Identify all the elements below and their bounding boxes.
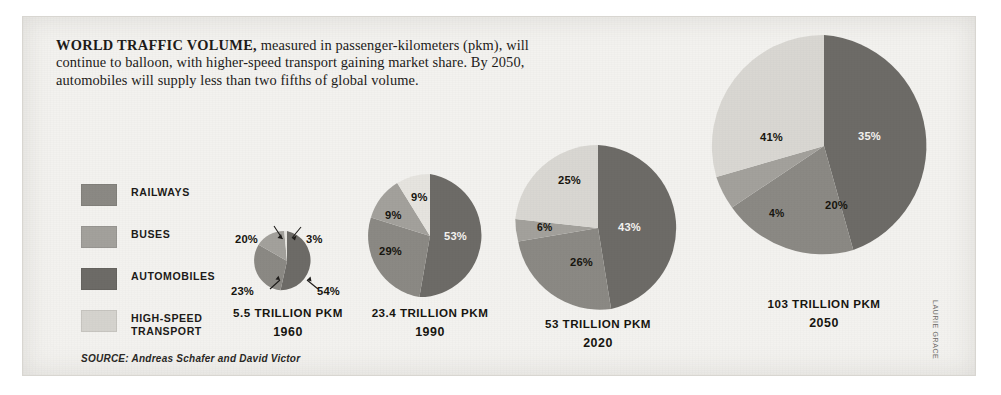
slice-label-buses-1960: 20% xyxy=(235,233,258,245)
pie-year-1960: 1960 xyxy=(220,325,356,339)
source-note: SOURCE: Andreas Schafer and David Victor xyxy=(81,353,300,364)
slice-label-high-speed-1960: 3% xyxy=(306,233,323,245)
legend-item-railways: RAILWAYS xyxy=(81,183,261,209)
slice-high-speed-2020 xyxy=(515,145,598,228)
legend-swatch-high-speed-transport xyxy=(81,310,117,332)
caption-lead: WORLD TRAFFIC VOLUME, xyxy=(56,37,257,53)
legend-label-railways: RAILWAYS xyxy=(131,183,190,199)
slice-label-automobiles-1990: 53% xyxy=(444,230,467,242)
pie-chart-2020: 43% 26% 6% 25% 53 TRILLION PKM 2020 xyxy=(515,145,681,341)
slice-label-buses-2050: 4% xyxy=(769,208,784,219)
figure-root: WORLD TRAFFIC VOLUME, measured in passen… xyxy=(0,0,1001,395)
pie-svg-2050 xyxy=(713,35,935,257)
pie-chart-1960: 20% 3% 23% 54% 5.5 TRILLION PKM 1960 xyxy=(234,230,342,340)
pie-year-1990: 1990 xyxy=(348,325,512,339)
slice-label-automobiles-1960: 54% xyxy=(317,285,340,297)
slice-label-railways-2020: 26% xyxy=(570,256,593,268)
legend-swatch-automobiles xyxy=(81,268,117,290)
legend-label-high-speed-transport: HIGH-SPEED TRANSPORT xyxy=(131,309,202,337)
slice-label-railways-2050: 20% xyxy=(825,199,848,211)
pie-year-2050: 2050 xyxy=(705,316,943,330)
slice-label-railways-1960: 23% xyxy=(231,285,254,297)
legend-swatch-buses xyxy=(81,226,117,248)
slice-label-automobiles-2050: 35% xyxy=(858,130,881,142)
legend-label-automobiles: AUTOMOBILES xyxy=(131,267,215,283)
pie-chart-2050: 35% 20% 4% 41% 103 TRILLION PKM 2050 xyxy=(713,35,935,331)
pie-year-2020: 2020 xyxy=(501,336,695,350)
pie-svg-1990 xyxy=(366,172,494,300)
slice-label-high-speed-2050: 41% xyxy=(760,131,783,143)
slice-label-railways-1990: 29% xyxy=(379,245,402,257)
pie-total-2050: 103 TRILLION PKM xyxy=(705,297,943,310)
legend-swatch-railways xyxy=(81,184,117,206)
pie-total-1960: 5.5 TRILLION PKM xyxy=(220,306,356,319)
pie-total-1990: 23.4 TRILLION PKM xyxy=(348,306,512,319)
slice-label-high-speed-1990: 9% xyxy=(411,191,428,203)
slice-label-buses-1990: 9% xyxy=(385,209,402,221)
chart-panel: WORLD TRAFFIC VOLUME, measured in passen… xyxy=(22,16,976,376)
pie-total-2020: 53 TRILLION PKM xyxy=(501,317,695,330)
slice-label-automobiles-2020: 43% xyxy=(618,221,641,233)
legend-label-buses: BUSES xyxy=(131,225,170,241)
slice-label-high-speed-2020: 25% xyxy=(558,174,581,186)
slice-label-buses-2020: 6% xyxy=(537,222,552,233)
slice-railways-2020 xyxy=(518,228,611,310)
pie-chart-1990: 53% 29% 9% 9% 23.4 TRILLION PKM 1990 xyxy=(366,172,494,340)
chart-caption: WORLD TRAFFIC VOLUME, measured in passen… xyxy=(56,37,556,89)
